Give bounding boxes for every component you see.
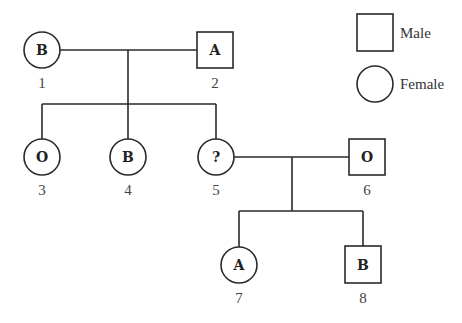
individual-number: 4 — [124, 182, 132, 198]
individual-8-male: B 8 — [345, 246, 381, 306]
legend-male-label: Male — [400, 25, 431, 41]
legend-female-label: Female — [400, 76, 444, 92]
individual-4-female: B 4 — [110, 139, 146, 198]
individual-2-male: A 2 — [197, 32, 233, 91]
individual-number: 3 — [38, 182, 46, 198]
individual-number: 8 — [359, 290, 367, 306]
blood-type-label: O — [36, 149, 48, 165]
blood-type-label: B — [122, 149, 134, 165]
legend: Male Female — [357, 14, 444, 102]
blood-type-label: B — [36, 42, 48, 58]
pedigree-diagram: B 1 A 2 O 3 B 4 ? 5 O 6 A 7 B 8 — [0, 0, 462, 323]
individual-6-male: O 6 — [349, 139, 385, 198]
blood-type-label: O — [361, 149, 373, 165]
individual-5-female: ? 5 — [198, 139, 234, 198]
blood-type-label: A — [209, 42, 222, 58]
individual-number: 2 — [211, 75, 219, 91]
individual-3-female: O 3 — [24, 139, 60, 198]
individual-number: 7 — [235, 290, 243, 306]
legend-female-circle-icon — [357, 66, 393, 102]
legend-male-square-icon — [357, 14, 393, 51]
blood-type-label: ? — [212, 149, 220, 165]
individual-number: 1 — [38, 75, 46, 91]
individual-number: 6 — [363, 182, 371, 198]
individual-1-female: B 1 — [24, 32, 60, 91]
individual-number: 5 — [212, 182, 220, 198]
blood-type-label: B — [357, 257, 369, 273]
blood-type-label: A — [233, 257, 246, 273]
individual-7-female: A 7 — [221, 247, 257, 306]
